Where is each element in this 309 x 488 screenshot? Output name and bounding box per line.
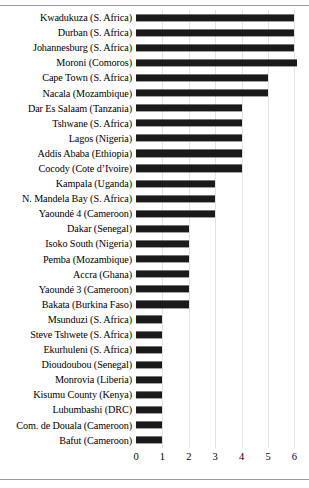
x-tick-label: 4 [239, 451, 244, 463]
bar-row: Dar Es Salaam (Tanzania) [0, 101, 309, 116]
category-label: Durban (S. Africa) [0, 27, 136, 38]
bar-row: Cape Town (S. Africa) [0, 70, 309, 85]
x-tick-label: 6 [292, 451, 297, 463]
bar-track [136, 191, 305, 206]
x-tick-label: 5 [265, 451, 270, 463]
bar-track [136, 342, 305, 357]
bar-row: Tshwane (S. Africa) [0, 116, 309, 131]
bar-track [136, 10, 305, 25]
category-label: Pemba (Mozambique) [0, 254, 136, 265]
bar [136, 150, 242, 157]
bar-row: Moroni (Comoros) [0, 55, 309, 70]
bar [136, 165, 242, 172]
bar-row: Steve Tshwete (S. Africa) [0, 327, 309, 342]
x-axis: 0123456 [0, 449, 309, 465]
bar [136, 271, 189, 278]
bar-row: Lubumbashi (DRC) [0, 402, 309, 417]
bar [136, 286, 189, 293]
bar-row: Addis Ababa (Ethiopia) [0, 146, 309, 161]
horizontal-bar-chart: Kwadukuza (S. Africa)Durban (S. Africa)J… [0, 10, 309, 465]
category-label: Kampala (Uganda) [0, 178, 136, 189]
category-label: Moroni (Comoros) [0, 57, 136, 68]
category-label: Msunduzi (S. Africa) [0, 314, 136, 325]
bar-track [136, 101, 305, 116]
bar-track [136, 131, 305, 146]
bar-track [136, 387, 305, 402]
category-label: Johannesburg (S. Africa) [0, 42, 136, 53]
bar [136, 135, 242, 142]
bar [136, 74, 268, 81]
category-label: N. Mandela Bay (S. Africa) [0, 193, 136, 204]
bar-track [136, 161, 305, 176]
bar-row: Kisumu County (Kenya) [0, 387, 309, 402]
bar-row: Isoko South (Nigeria) [0, 236, 309, 251]
bar [136, 255, 189, 262]
bar-row: N. Mandela Bay (S. Africa) [0, 191, 309, 206]
bar-track [136, 70, 305, 85]
bar-track [136, 327, 305, 342]
x-tick-label: 1 [160, 451, 165, 463]
bar-row: Bafut (Cameroon) [0, 433, 309, 448]
bar-track [136, 357, 305, 372]
category-label: Dakar (Senegal) [0, 223, 136, 234]
bar-track [136, 206, 305, 221]
category-label: Dar Es Salaam (Tanzania) [0, 103, 136, 114]
category-label: Com. de Douala (Cameroon) [0, 420, 136, 431]
category-label: Yaoundé 4 (Cameroon) [0, 208, 136, 219]
bar [136, 120, 242, 127]
bar [136, 331, 162, 338]
bar-track [136, 433, 305, 448]
bar-track [136, 282, 305, 297]
bar [136, 240, 189, 247]
bar-row: Yaoundé 3 (Cameroon) [0, 282, 309, 297]
category-label: Lubumbashi (DRC) [0, 404, 136, 415]
bar-row: Yaoundé 4 (Cameroon) [0, 206, 309, 221]
bar-track [136, 252, 305, 267]
bar-track [136, 146, 305, 161]
category-label: Isoko South (Nigeria) [0, 238, 136, 249]
bar-row: Dioudoubou (Senegal) [0, 357, 309, 372]
top-divider-rule [0, 5, 309, 6]
bar [136, 14, 294, 21]
x-tick-label: 0 [133, 451, 138, 463]
bar-track [136, 297, 305, 312]
bar-row: Ekurhuleni (S. Africa) [0, 342, 309, 357]
bar [136, 225, 189, 232]
bar-track [136, 55, 305, 70]
bar [136, 29, 294, 36]
bar [136, 195, 215, 202]
chart-page: Kwadukuza (S. Africa)Durban (S. Africa)J… [0, 0, 309, 488]
bar-row: Nacala (Mozambique) [0, 85, 309, 100]
x-tick-label: 2 [186, 451, 191, 463]
category-label: Accra (Ghana) [0, 269, 136, 280]
category-label: Cocody (Cote d’Ivoire) [0, 163, 136, 174]
category-label: Cape Town (S. Africa) [0, 72, 136, 83]
category-label: Steve Tshwete (S. Africa) [0, 329, 136, 340]
bar [136, 346, 162, 353]
bar [136, 316, 162, 323]
bar-track [136, 418, 305, 433]
bar-row: Monrovia (Liberia) [0, 372, 309, 387]
category-label: Addis Ababa (Ethiopia) [0, 148, 136, 159]
bar-rows: Kwadukuza (S. Africa)Durban (S. Africa)J… [0, 10, 309, 448]
bar-row: Lagos (Nigeria) [0, 131, 309, 146]
bar [136, 89, 268, 96]
bar-row: Msunduzi (S. Africa) [0, 312, 309, 327]
bar [136, 180, 215, 187]
bar-row: Cocody (Cote d’Ivoire) [0, 161, 309, 176]
bar [136, 406, 162, 413]
bar [136, 210, 215, 217]
x-tick-label: 3 [213, 451, 218, 463]
category-label: Yaoundé 3 (Cameroon) [0, 284, 136, 295]
category-label: Nacala (Mozambique) [0, 88, 136, 99]
bar-row: Kwadukuza (S. Africa) [0, 10, 309, 25]
bar [136, 437, 162, 444]
bar-row: Pemba (Mozambique) [0, 252, 309, 267]
category-label: Bakata (Burkina Faso) [0, 299, 136, 310]
bar-track [136, 236, 305, 251]
bar-track [136, 267, 305, 282]
bar [136, 105, 242, 112]
bar-track [136, 85, 305, 100]
bar [136, 391, 162, 398]
category-label: Kisumu County (Kenya) [0, 389, 136, 400]
